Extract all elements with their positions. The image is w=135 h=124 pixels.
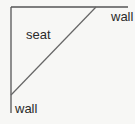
label-wall-top: wall xyxy=(111,10,133,23)
corner-seat-diagram: wall seat wall xyxy=(0,0,135,124)
label-seat: seat xyxy=(26,28,51,41)
label-wall-bottom: wall xyxy=(15,102,37,115)
seat-diagonal-line xyxy=(11,7,96,95)
